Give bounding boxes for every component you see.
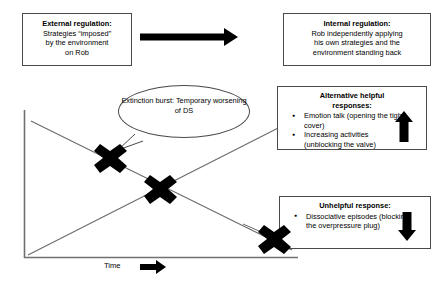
up-arrow-icon (395, 111, 413, 142)
x-marker-icon (144, 175, 177, 204)
right-arrow-icon (140, 28, 238, 46)
diagram-canvas: External regulation: Strategies “imposed… (0, 0, 446, 285)
x-marker-icon (94, 144, 127, 173)
x-marker-icon (258, 225, 291, 254)
down-arrow-icon (398, 212, 416, 241)
right-arrow-icon (140, 260, 166, 274)
overlay-markers-and-arrows (0, 0, 446, 285)
